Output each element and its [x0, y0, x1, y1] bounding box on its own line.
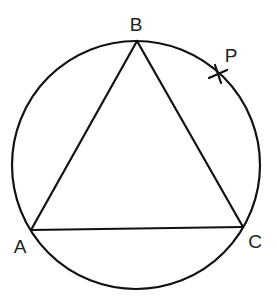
circumscribed-circle: [12, 41, 260, 289]
label-p: P: [225, 45, 238, 66]
label-b: B: [130, 14, 143, 35]
label-c: C: [248, 231, 262, 252]
geometry-diagram: A B C P: [0, 0, 277, 304]
segment-bc: [137, 41, 243, 227]
label-a: A: [14, 236, 27, 257]
segment-ab: [31, 41, 137, 230]
segment-ac: [31, 227, 243, 230]
